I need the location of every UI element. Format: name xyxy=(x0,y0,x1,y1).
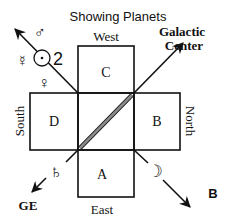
sun-dot xyxy=(41,57,44,60)
box-b-label: B xyxy=(152,114,161,129)
box-c-label: C xyxy=(101,65,110,80)
direction-west: West xyxy=(93,29,119,44)
direction-east: East xyxy=(91,202,114,217)
box-a-label: A xyxy=(97,167,108,182)
se-line xyxy=(134,150,148,163)
diagonal-band xyxy=(80,95,132,148)
jupiter-icon: 2 xyxy=(53,49,63,69)
ge-arrow xyxy=(32,178,46,192)
panel-label: B xyxy=(208,186,217,201)
galactic-center-label-2: Center xyxy=(165,38,203,53)
planet-diagram: Showing Planets C D B A West East South … xyxy=(0,0,228,223)
se-arrow xyxy=(163,180,190,207)
saturn-icon: ♄ xyxy=(49,162,63,182)
direction-south: South xyxy=(12,105,27,136)
galactic-center-label-1: Galactic xyxy=(159,24,205,39)
venus-icon: ♀ xyxy=(38,74,50,91)
moon-icon: ☽ xyxy=(147,162,162,181)
direction-north: North xyxy=(183,106,198,137)
diagram-title: Showing Planets xyxy=(70,9,167,24)
ge-label: GE xyxy=(19,198,38,213)
mercury-icon: ☿ xyxy=(16,52,27,69)
mars-icon: ♂ xyxy=(34,24,46,41)
sw-line xyxy=(66,150,78,162)
box-d-label: D xyxy=(49,114,59,129)
